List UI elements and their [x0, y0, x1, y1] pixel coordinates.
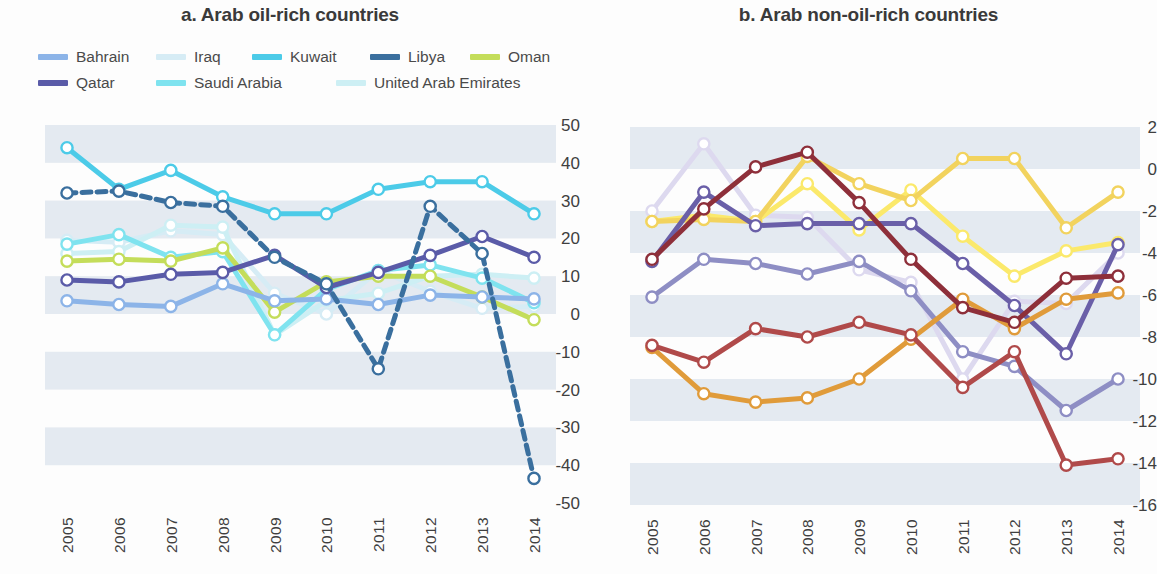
x-axis-tick-label: 2013 [474, 517, 492, 553]
data-point [61, 142, 72, 153]
y-axis-tick-label: -16 [1115, 497, 1157, 514]
legend-item[interactable]: Iraq [156, 44, 252, 70]
panel-a: a. Arab oil-rich countries BahrainIraqKu… [0, 0, 580, 574]
data-point [61, 295, 72, 306]
y-axis-tick-label: -50 [543, 495, 580, 512]
legend-label: Saudi Arabia [194, 75, 282, 91]
x-axis-tick-label: 2009 [851, 519, 869, 555]
x-axis-tick-label: 2008 [215, 517, 233, 553]
chart-canvas [0, 110, 580, 574]
legend-item[interactable]: Libya [370, 44, 470, 70]
panel-b-title: b. Arab non-oil-rich countries [580, 4, 1157, 26]
legend-label: Kuwait [290, 49, 337, 65]
y-axis-tick-label: 40 [543, 154, 580, 171]
y-axis-tick-label: 2 [1115, 119, 1157, 136]
panel-b-plot: 20-2-4-6-8-10-12-14-16200520062007200820… [580, 110, 1157, 574]
data-point [698, 187, 709, 198]
data-point [905, 285, 916, 296]
data-point [750, 397, 761, 408]
data-point [269, 307, 280, 318]
data-point [1009, 346, 1020, 357]
data-point [698, 138, 709, 149]
data-point [905, 195, 916, 206]
legend-item[interactable]: Kuwait [252, 44, 370, 70]
data-point [1112, 187, 1123, 198]
data-point [217, 278, 228, 289]
legend-item[interactable]: Bahrain [38, 44, 156, 70]
data-point [321, 293, 332, 304]
legend-item[interactable]: Saudi Arabia [156, 70, 336, 96]
data-point [321, 278, 332, 289]
data-point [957, 231, 968, 242]
x-axis-tick-label: 2012 [422, 517, 440, 553]
figure-root: a. Arab oil-rich countries BahrainIraqKu… [0, 0, 1157, 574]
x-axis-tick-label: 2007 [163, 517, 181, 553]
data-point [646, 292, 657, 303]
data-point [750, 258, 761, 269]
legend-label: Libya [408, 49, 445, 65]
data-point [957, 346, 968, 357]
y-axis-tick-label: -6 [1115, 287, 1157, 304]
data-point [113, 276, 124, 287]
legend-swatch-icon [38, 80, 68, 86]
data-point [1009, 317, 1020, 328]
x-axis-tick-label: 2011 [955, 519, 973, 554]
data-point [217, 242, 228, 253]
data-point [957, 258, 968, 269]
legend-swatch-icon [156, 80, 186, 86]
data-point [165, 269, 176, 280]
data-point [1061, 222, 1072, 233]
data-point [321, 308, 332, 319]
data-point [425, 176, 436, 187]
data-point [113, 254, 124, 265]
y-axis-tick-label: -10 [543, 343, 580, 360]
data-point [1112, 271, 1123, 282]
x-axis-tick-label: 2010 [318, 517, 336, 553]
data-point [1009, 300, 1020, 311]
legend-label: United Arab Emirates [374, 75, 520, 91]
legend-swatch-icon [252, 54, 282, 60]
data-point [750, 220, 761, 231]
x-axis-tick-label: 2012 [1006, 519, 1024, 555]
data-point [477, 248, 488, 259]
data-point [61, 239, 72, 250]
data-point [957, 302, 968, 313]
data-point [165, 197, 176, 208]
x-axis-tick-label: 2014 [526, 517, 544, 553]
data-point [802, 147, 813, 158]
y-axis-tick-label: -40 [543, 457, 580, 474]
y-axis-tick-label: -12 [1115, 413, 1157, 430]
data-point [802, 331, 813, 342]
data-point [698, 203, 709, 214]
data-point [165, 301, 176, 312]
data-point [269, 252, 280, 263]
data-point [528, 273, 539, 284]
data-point [269, 295, 280, 306]
data-point [373, 299, 384, 310]
data-point [957, 153, 968, 164]
panel-a-title: a. Arab oil-rich countries [0, 4, 580, 26]
legend-item[interactable]: United Arab Emirates [336, 70, 572, 96]
x-axis-tick-label: 2010 [903, 519, 921, 555]
x-axis-tick-label: 2005 [644, 519, 662, 555]
legend-item[interactable]: Oman [470, 44, 570, 70]
y-axis-tick-label: 0 [543, 306, 580, 323]
x-axis-tick-label: 2011 [370, 517, 388, 552]
data-point [165, 165, 176, 176]
data-point [854, 317, 865, 328]
legend-item[interactable]: Qatar [38, 70, 156, 96]
data-point [854, 373, 865, 384]
data-point [854, 178, 865, 189]
y-axis-tick-label: 50 [543, 117, 580, 134]
data-point [802, 178, 813, 189]
y-axis-tick-label: -4 [1115, 245, 1157, 262]
grid-bands [630, 127, 1140, 505]
data-point [477, 303, 488, 314]
data-point [750, 161, 761, 172]
data-point [802, 268, 813, 279]
data-point [646, 254, 657, 265]
data-point [425, 250, 436, 261]
x-axis-tick-label: 2007 [748, 519, 766, 555]
x-axis-tick-label: 2006 [111, 517, 129, 553]
data-point [113, 229, 124, 240]
